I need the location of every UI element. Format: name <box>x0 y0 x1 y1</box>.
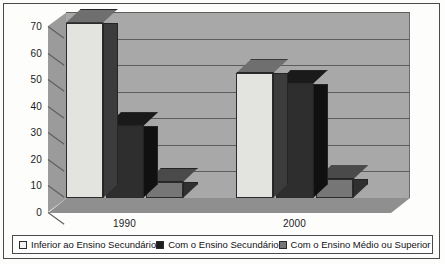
bar-side-face <box>143 126 158 198</box>
legend-item-label: Com o Ensino Secundário <box>168 239 278 250</box>
legend-swatch-icon <box>19 241 27 249</box>
bar-side-face <box>273 73 288 198</box>
bar-top-face <box>66 9 118 23</box>
bar-side-face <box>183 182 198 198</box>
legend-item-label: Com o Ensino Médio ou Superior <box>291 239 431 250</box>
legend-item-label: Inferior ao Ensino Secundário <box>31 239 156 250</box>
chart-frame: 010203040506070 19902000 Inferior ao Ens… <box>3 3 440 259</box>
y-axis-tick-label: 10 <box>30 180 42 191</box>
x-axis-tick-label: 1990 <box>113 218 136 229</box>
bar-front-face <box>236 73 273 198</box>
y-axis-tick-label: 30 <box>30 127 42 138</box>
y-axis-tick-label: 20 <box>30 153 42 164</box>
bar-side-face <box>103 23 118 198</box>
legend-swatch-icon <box>156 241 164 249</box>
legend-item-0[interactable]: Inferior ao Ensino Secundário <box>19 239 156 250</box>
gridline-side <box>48 212 65 225</box>
plot-floor <box>48 198 410 213</box>
bar-top-face <box>236 59 288 73</box>
y-axis-tick-label: 50 <box>30 74 42 85</box>
chart-screenshot: 010203040506070 19902000 Inferior ao Ens… <box>0 0 445 264</box>
legend-item-1[interactable]: Com o Ensino Secundário <box>156 239 278 250</box>
legend-item-2[interactable]: Com o Ensino Médio ou Superior <box>279 239 431 250</box>
bar-2000-series-0 <box>236 73 273 198</box>
plot-area: 010203040506070 19902000 <box>48 12 410 212</box>
bar-side-face <box>353 179 368 198</box>
bar-1990-series-0 <box>66 23 103 198</box>
chart-legend: Inferior ao Ensino SecundárioCom o Ensin… <box>12 235 433 254</box>
y-axis-tick-label: 60 <box>30 47 42 58</box>
legend-swatch-icon <box>279 241 287 249</box>
y-axis-tick-label: 0 <box>36 207 42 218</box>
bar-front-face <box>66 23 103 198</box>
y-axis-tick-label: 40 <box>30 100 42 111</box>
x-axis-tick-label: 2000 <box>283 218 306 229</box>
y-axis-tick-label: 70 <box>30 21 42 32</box>
bar-side-face <box>313 84 328 198</box>
